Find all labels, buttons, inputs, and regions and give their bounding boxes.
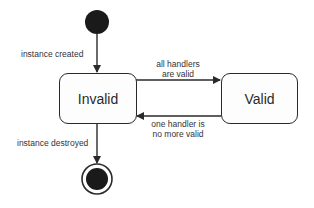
label-instance-destroyed: instance destroyed bbox=[17, 138, 88, 148]
label-all-handlers-valid: all handlers are valid bbox=[148, 59, 208, 79]
state-valid: Valid bbox=[221, 73, 298, 124]
state-invalid-label: Invalid bbox=[78, 91, 118, 107]
state-valid-label: Valid bbox=[244, 91, 274, 107]
label-one-handler-line2: no more valid bbox=[146, 129, 210, 139]
label-all-handlers-line2: are valid bbox=[148, 69, 208, 79]
state-invalid: Invalid bbox=[59, 73, 137, 124]
label-all-handlers-line1: all handlers bbox=[148, 59, 208, 69]
initial-state-node bbox=[85, 10, 109, 34]
label-one-handler-invalid: one handler is no more valid bbox=[146, 119, 210, 139]
label-one-handler-line1: one handler is bbox=[146, 119, 210, 129]
final-state-node bbox=[86, 168, 108, 190]
label-instance-created: instance created bbox=[21, 49, 83, 59]
